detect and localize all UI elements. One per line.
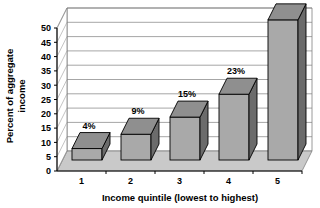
y-tick-label: 45 [41,38,51,48]
y-tick-label: 35 [41,66,51,76]
y-tick-label: 5 [46,152,51,162]
bar-value-label: 49% [276,0,294,2]
x-tick-label: 3 [177,176,182,186]
y-tick-label: 50 [41,23,51,33]
y-tick-label: 30 [41,81,51,91]
y-tick-label: 25 [41,95,51,105]
bar-front-face [170,117,200,160]
bar-value-label: 4% [82,121,95,131]
bar-front-face [268,20,298,160]
y-axis-title-line2: income [16,79,27,112]
x-tick-label: 1 [79,176,84,186]
y-tick-label: 15 [41,123,51,133]
bar-front-face [121,134,151,160]
y-tick-label: 0 [46,166,51,176]
bar-front-face [72,149,102,160]
y-tick-label: 20 [41,109,51,119]
x-axis-tick-labels: 12345 [79,176,280,186]
y-axis-title-line1: Percent of aggregate [4,49,15,144]
bar-chart-3d: 05101520253035404550 4%9%15%23%49% 12345… [0,0,320,208]
x-tick-label: 2 [128,176,133,186]
bar-front-face [219,94,249,160]
bar-value-label: 9% [131,106,144,116]
y-axis-ticks: 05101520253035404550 [41,23,57,176]
y-tick-label: 10 [41,138,51,148]
bar-side-face [298,4,306,160]
x-tick-label: 5 [275,176,280,186]
y-tick-label: 40 [41,52,51,62]
bar-value-label: 15% [178,89,196,99]
chart-container: 05101520253035404550 4%9%15%23%49% 12345… [0,0,320,208]
x-axis-title: Income quintile (lowest to highest) [102,192,258,203]
bar-value-label: 23% [227,66,245,76]
x-tick-label: 4 [226,176,231,186]
